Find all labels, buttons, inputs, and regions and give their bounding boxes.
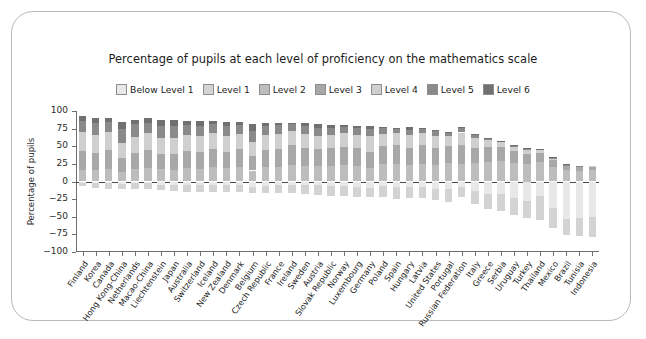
bar-segment <box>196 126 204 136</box>
bar-segment <box>458 128 466 133</box>
legend-swatch <box>483 84 494 95</box>
bar-segment <box>340 127 348 133</box>
legend-label: Level 6 <box>497 84 530 95</box>
bar-segment <box>79 151 87 171</box>
bar-segment <box>92 153 100 170</box>
bar-segment <box>314 128 322 136</box>
x-axis-tick-mark <box>148 252 149 256</box>
bar-stack <box>92 111 100 252</box>
x-axis-tick-mark <box>109 252 110 256</box>
y-axis-tick-label: 100 <box>51 105 68 115</box>
bar-segment <box>510 182 518 199</box>
bar-segment <box>105 169 113 182</box>
bar-segment <box>549 182 557 209</box>
bar-segment <box>314 166 322 181</box>
bar-segment <box>314 124 322 128</box>
bar-stack <box>419 111 427 252</box>
x-axis-tick-mark <box>122 252 123 256</box>
bar-stack <box>118 111 126 252</box>
bar-stack <box>131 111 139 252</box>
x-axis-tick-mark <box>305 252 306 256</box>
bar-segment <box>209 149 217 167</box>
bar-segment <box>157 138 165 154</box>
bar-segment <box>576 171 584 182</box>
legend-swatch <box>315 84 326 95</box>
bar-segment <box>471 191 479 204</box>
legend-item: Below Level 1 <box>116 84 194 95</box>
x-axis-tick-mark <box>318 252 319 256</box>
bar-stack <box>236 111 244 252</box>
bar-segment <box>576 182 584 218</box>
bar-segment <box>79 132 87 150</box>
bar-segment <box>157 185 165 191</box>
bar-segment <box>170 185 178 191</box>
bar-segment <box>393 145 401 164</box>
bar-segment <box>157 169 165 181</box>
x-axis-tick-mark <box>83 252 84 256</box>
y-axis-tick-label: −100 <box>43 246 68 256</box>
bar-segment <box>288 123 296 125</box>
bar-segment <box>458 133 466 146</box>
bar-segment <box>314 185 322 194</box>
bar-segment <box>497 142 505 147</box>
bar-segment <box>275 149 283 167</box>
bar-segment <box>353 148 361 165</box>
x-axis-tick-mark <box>383 252 384 256</box>
bar-segment <box>183 151 191 168</box>
bar-segment <box>209 185 217 191</box>
bar-segment <box>131 120 139 124</box>
legend-item: Level 5 <box>427 84 474 95</box>
bar-segment <box>183 135 191 151</box>
bar-stack <box>549 111 557 252</box>
bar-segment <box>301 185 309 193</box>
bar-segment <box>419 187 427 198</box>
bar-segment <box>236 125 244 133</box>
bar-stack <box>262 111 270 252</box>
bar-stack <box>288 111 296 252</box>
bar-segment <box>458 127 466 128</box>
y-axis-tick-label: −25 <box>49 193 68 203</box>
bar-segment <box>353 128 361 135</box>
bar-segment <box>262 126 270 135</box>
legend-item: Level 1 <box>203 84 250 95</box>
bar-stack <box>144 111 152 252</box>
bar-segment <box>209 124 217 133</box>
bar-segment <box>79 116 87 121</box>
bar-segment <box>131 169 139 182</box>
y-axis-tick-label: 0 <box>62 176 68 186</box>
bar-segment <box>92 118 100 124</box>
bar-segment <box>262 186 270 193</box>
bar-segment <box>406 135 414 148</box>
bar-segment <box>484 182 492 195</box>
bar-segment <box>406 165 414 181</box>
bar-segment <box>249 187 257 194</box>
bar-segment <box>536 162 544 181</box>
bar-segment <box>432 148 440 165</box>
bar-segment <box>497 161 505 181</box>
legend-item: Level 2 <box>259 84 306 95</box>
bar-segment <box>170 170 178 181</box>
bar-segment <box>196 185 204 192</box>
bar-segment <box>275 125 283 133</box>
bar-stack <box>327 111 335 252</box>
bar-segment <box>340 186 348 196</box>
bar-segment <box>105 150 113 168</box>
bar-segment <box>209 133 217 149</box>
bar-segment <box>170 126 178 137</box>
bar-segment <box>157 126 165 138</box>
bar-segment <box>144 133 152 150</box>
bar-segment <box>353 187 361 197</box>
bar-segment <box>393 133 401 145</box>
bar-segment <box>445 189 453 202</box>
bar-segment <box>118 184 126 189</box>
bar-segment <box>170 120 178 126</box>
bar-segment <box>432 182 440 189</box>
bar-segment <box>445 146 453 163</box>
bar-segment <box>301 126 309 134</box>
bar-segment <box>262 135 270 150</box>
bar-stack <box>536 111 544 252</box>
bar-segment <box>209 121 217 124</box>
x-axis-tick-mark <box>527 252 528 256</box>
chart-legend: Below Level 1Level 1Level 2Level 3Level … <box>0 84 646 95</box>
bar-segment <box>523 154 531 164</box>
